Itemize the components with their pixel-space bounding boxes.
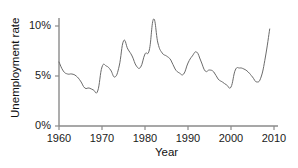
x-axis-title: Year (59, 147, 274, 159)
chart-figure: 0%5%10% 196019701980199020002010 Unemplo… (0, 0, 298, 168)
x-tick-label: 1990 (168, 133, 208, 144)
x-tick-label: 1960 (39, 133, 79, 144)
chart-ticks (55, 26, 274, 130)
x-tick-label: 1970 (82, 133, 122, 144)
x-tick-label: 1980 (125, 133, 165, 144)
x-tick-label: 2000 (211, 133, 251, 144)
chart-axes (59, 18, 278, 126)
y-axis-title: Unemployment rate (10, 8, 22, 128)
x-tick-label: 2010 (254, 133, 294, 144)
unemployment-rate-line (59, 19, 270, 93)
